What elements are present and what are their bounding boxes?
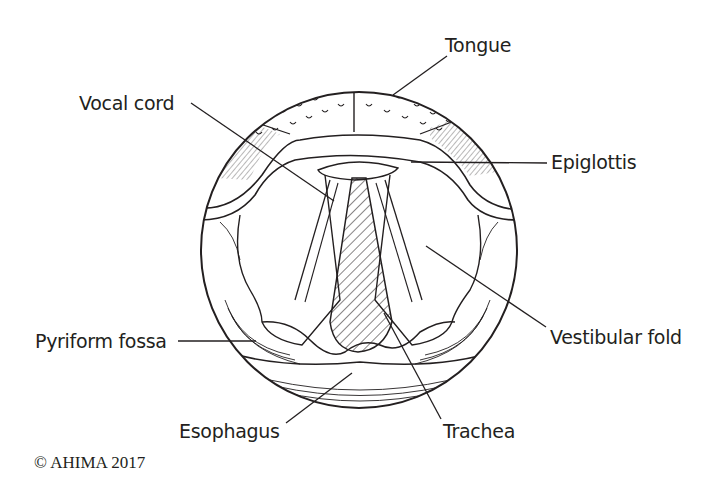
copyright-notice: © AHIMA 2017 (34, 453, 145, 473)
label-epiglottis: Epiglottis (551, 151, 636, 173)
larynx-illustration (0, 0, 722, 493)
label-pyriform-fossa: Pyriform fossa (35, 330, 167, 352)
tongue-region (256, 68, 452, 134)
larynx-diagram: Tongue Vocal cord Epiglottis Vestibular … (0, 0, 722, 493)
label-esophagus: Esophagus (179, 420, 280, 442)
label-trachea: Trachea (443, 420, 515, 442)
label-tongue: Tongue (445, 34, 511, 56)
label-vocal-cord: Vocal cord (79, 92, 174, 114)
label-vestibular-fold: Vestibular fold (550, 326, 682, 348)
